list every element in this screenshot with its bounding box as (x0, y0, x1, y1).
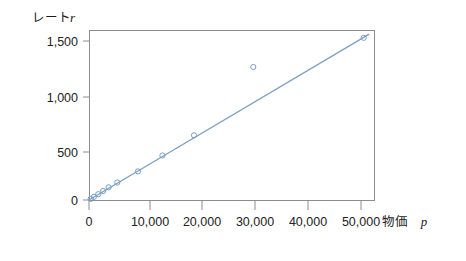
y-tick-label-1000: 1,000 (47, 91, 78, 105)
chart-figure: 1,500 1,000 500 0 レート r 0 10,000 20,000 … (0, 0, 466, 261)
y-tick-label-500: 500 (57, 146, 78, 160)
x-tick-label-50000: 50,000 (342, 215, 380, 229)
x-tick-label-30000: 30,000 (236, 215, 274, 229)
scatter-plot-svg: 1,500 1,000 500 0 レート r 0 10,000 20,000 … (0, 0, 466, 261)
y-axis-label: レート (32, 11, 71, 25)
y-tick-label-1500: 1,500 (47, 35, 78, 49)
y-tick-label-0: 0 (71, 194, 78, 208)
x-axis-label: 物価 (382, 215, 408, 229)
x-tick-label-40000: 40,000 (289, 215, 327, 229)
x-tick-label-20000: 20,000 (183, 215, 221, 229)
x-axis-label-symbol: p (420, 214, 428, 229)
x-tick-label-0: 0 (86, 215, 93, 229)
x-tick-label-10000: 10,000 (131, 215, 169, 229)
